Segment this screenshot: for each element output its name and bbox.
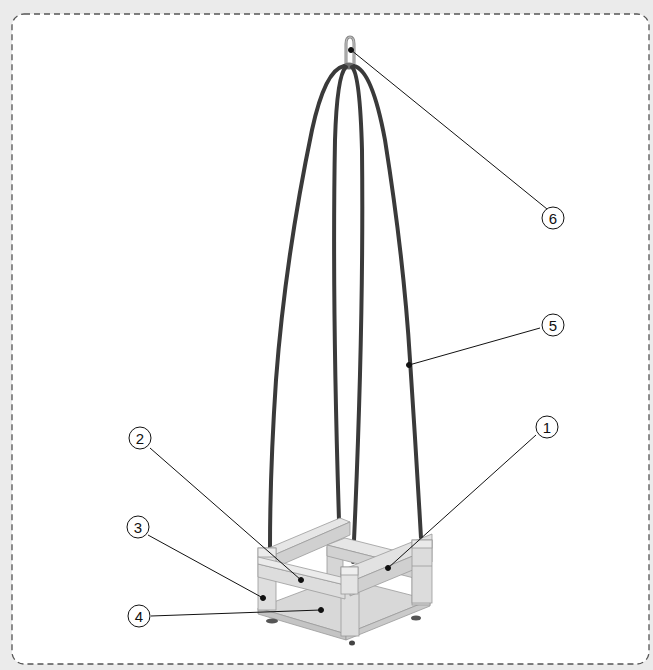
callout-2-label: 2: [136, 430, 144, 447]
callout-6-label: 6: [549, 210, 557, 227]
callout-6: 6: [542, 207, 564, 229]
callout-4: 4: [128, 605, 150, 627]
callout-3-label: 3: [134, 519, 142, 536]
callout-5: 5: [542, 314, 564, 336]
swing-parts-diagram: 6 5 1 2 3 4: [0, 0, 653, 670]
callout-4-label: 4: [135, 608, 143, 625]
callout-3: 3: [127, 516, 149, 538]
callout-1-label: 1: [543, 419, 551, 436]
callout-5-label: 5: [549, 317, 557, 334]
callout-2: 2: [129, 427, 151, 449]
callout-1: 1: [536, 416, 558, 438]
